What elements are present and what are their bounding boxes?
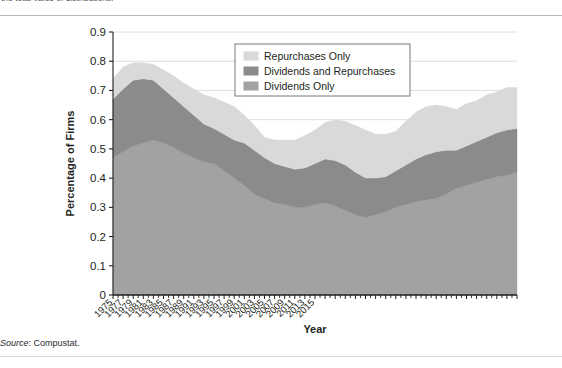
chart-legend: Repurchases OnlyDividends and Repurchase…: [235, 44, 410, 96]
y-tick-label: 0.2: [90, 231, 106, 243]
y-tick-label: 0.3: [90, 201, 106, 213]
figure-area: 00.10.20.30.40.50.60.70.80.9197519771979…: [0, 16, 562, 336]
legend-swatch: [244, 52, 258, 60]
x-axis-title: Year: [303, 323, 327, 335]
legend-label: Repurchases Only: [264, 50, 351, 62]
legend-swatch: [244, 67, 258, 75]
legend-swatch: [244, 82, 258, 90]
y-tick-label: 0.5: [90, 143, 106, 155]
source-value: : Compustat.: [29, 338, 80, 348]
legend-label: Dividends Only: [264, 80, 335, 92]
y-tick-label: 0.9: [90, 26, 106, 38]
y-tick-label: 0.7: [90, 84, 106, 96]
stacked-area-chart: 00.10.20.30.40.50.60.70.80.9197519771979…: [0, 16, 562, 336]
source-note: Source: Compustat.: [0, 338, 562, 354]
y-tick-label: 0.8: [90, 55, 106, 67]
y-tick-label: 0.1: [90, 260, 106, 272]
y-tick-label: 0.4: [90, 172, 107, 184]
y-tick-label: 0.6: [90, 114, 106, 126]
caption-fragment: the total value of distributions.: [0, 0, 562, 12]
y-axis-title: Percentage of Firms: [64, 111, 76, 217]
bottom-divider: [0, 356, 562, 357]
source-label: Source: [0, 338, 29, 348]
legend-label: Dividends and Repurchases: [264, 65, 395, 77]
